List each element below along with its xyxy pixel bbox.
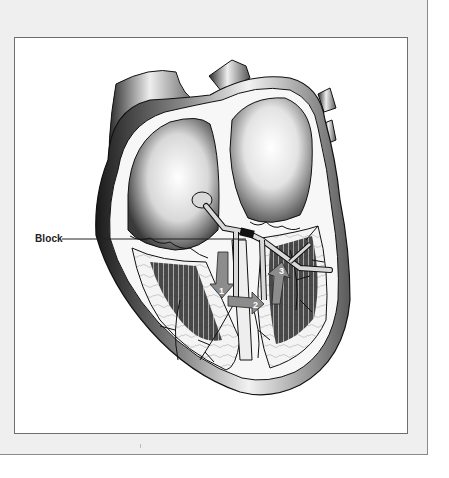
block-label: Block: [35, 233, 63, 244]
heart-illustration: 1 2 3: [0, 0, 449, 478]
left-atrium: [230, 98, 312, 223]
arrow-2-number: 2: [253, 300, 258, 310]
print-artifact: [140, 444, 141, 448]
arrow-3-number: 3: [279, 266, 284, 276]
arrow-1-number: 1: [219, 286, 224, 296]
